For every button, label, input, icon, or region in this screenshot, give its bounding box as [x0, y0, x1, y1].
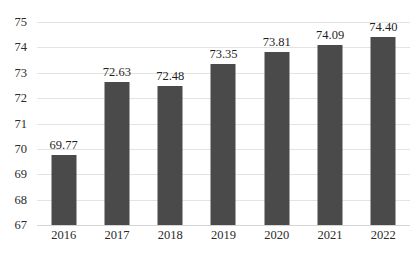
y-axis-tick-label: 73	[15, 67, 28, 80]
bar-value-label: 73.81	[263, 36, 291, 49]
bar-chart: 676869707172737475 69.7772.6372.4873.357…	[0, 0, 412, 264]
x-axis-tick-label: 2016	[51, 229, 76, 242]
bar-slot: 74.40	[357, 22, 410, 225]
bar-slot: 74.09	[303, 22, 356, 225]
bar-value-label: 69.77	[50, 139, 78, 152]
plot-area: 69.7772.6372.4873.3573.8174.0974.40	[37, 22, 410, 225]
gridline	[37, 225, 410, 226]
bar-slot: 73.81	[250, 22, 303, 225]
bar[interactable]	[51, 155, 76, 225]
x-axis-tick-label: 2019	[211, 229, 236, 242]
bar[interactable]	[318, 45, 343, 225]
y-axis-tick-label: 69	[15, 168, 28, 181]
bar[interactable]	[211, 64, 236, 225]
x-axis-tick-label: 2017	[104, 229, 129, 242]
y-axis-tick-label: 70	[15, 143, 28, 156]
x-axis-tick-label: 2018	[158, 229, 183, 242]
bar[interactable]	[104, 82, 129, 225]
bar-slot: 69.77	[37, 22, 90, 225]
y-axis-tick-label: 74	[15, 41, 28, 54]
y-axis-tick-label: 67	[15, 219, 28, 232]
bar[interactable]	[371, 37, 396, 225]
bar-slot: 72.48	[144, 22, 197, 225]
bar-value-label: 72.63	[103, 66, 131, 79]
x-axis-tick-label: 2022	[371, 229, 396, 242]
x-axis-tick-label: 2020	[264, 229, 289, 242]
y-axis-tick-label: 72	[15, 92, 28, 105]
bar-value-label: 74.09	[316, 29, 344, 42]
x-axis: 2016201720182019202020212022	[37, 229, 410, 251]
y-axis: 676869707172737475	[0, 22, 33, 225]
bar-value-label: 74.40	[369, 21, 397, 34]
bar-value-label: 73.35	[209, 48, 237, 61]
y-axis-tick-label: 68	[15, 193, 28, 206]
bar-value-label: 72.48	[156, 70, 184, 83]
y-axis-tick-label: 71	[15, 117, 28, 130]
x-axis-tick-label: 2021	[318, 229, 343, 242]
bar[interactable]	[264, 52, 289, 225]
bar-slot: 72.63	[90, 22, 143, 225]
y-axis-tick-label: 75	[15, 16, 28, 29]
bar[interactable]	[158, 86, 183, 225]
bar-slot: 73.35	[197, 22, 250, 225]
